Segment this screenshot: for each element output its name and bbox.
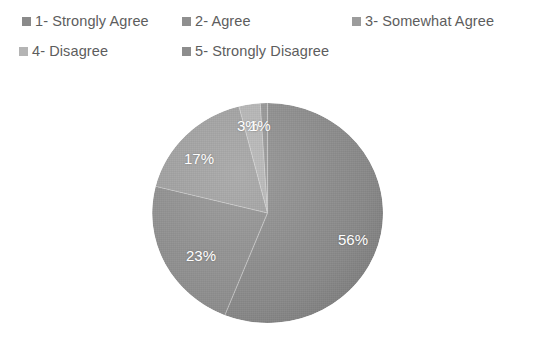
legend-item-strongly-disagree[interactable]: 5- Strongly Disagree [182,44,329,59]
legend-item-label: 4- Disagree [32,44,108,59]
legend-item-label: 3- Somewhat Agree [365,14,494,29]
legend-swatch-icon [182,47,191,56]
legend-row-2: 4- Disagree 5- Strongly Disagree [0,40,538,72]
chart-legend: 1- Strongly Agree 2- Agree 3- Somewhat A… [0,8,538,72]
legend-item-label: 1- Strongly Agree [35,14,149,29]
pie-slices [152,103,383,323]
pie-label-strongly-agree: 56% [338,232,368,247]
pie-svg [152,103,383,323]
pie-label-agree: 23% [186,248,216,263]
legend-swatch-icon [19,47,28,56]
pie-label-strongly-disagree: 1% [249,118,271,133]
legend-item-somewhat-agree[interactable]: 3- Somewhat Agree [352,14,494,29]
legend-row-1: 1- Strongly Agree 2- Agree 3- Somewhat A… [0,8,538,40]
legend-item-agree[interactable]: 2- Agree [182,14,251,29]
chart-plot-area: 56% 23% 17% 3% 1% [0,86,538,346]
legend-swatch-icon [22,17,31,26]
pie-chart: 56% 23% 17% 3% 1% [152,103,383,323]
legend-swatch-icon [352,17,361,26]
legend-item-label: 2- Agree [195,14,251,29]
legend-item-label: 5- Strongly Disagree [195,44,329,59]
legend-swatch-icon [182,17,191,26]
legend-item-strongly-agree[interactable]: 1- Strongly Agree [22,14,149,29]
legend-item-disagree[interactable]: 4- Disagree [19,44,108,59]
pie-label-somewhat-agree: 17% [184,151,214,166]
